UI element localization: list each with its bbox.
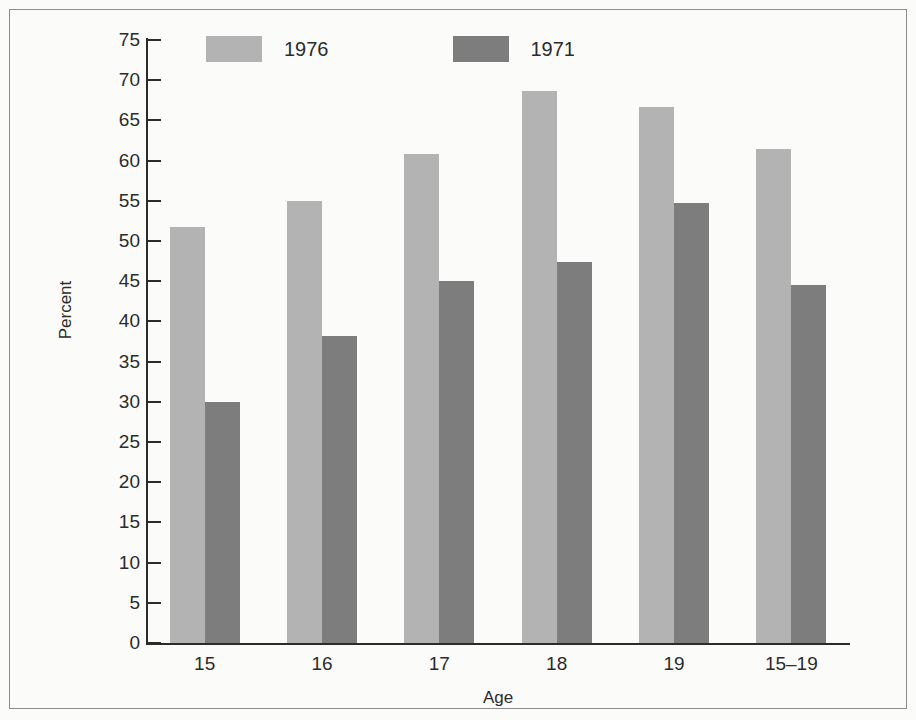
y-axis-tick-label: 50 bbox=[96, 231, 140, 251]
y-axis-tick-label: 75 bbox=[96, 30, 140, 50]
y-axis-tick-label: 10 bbox=[96, 553, 140, 573]
y-axis-tick-label-text: 5 bbox=[100, 593, 140, 612]
bar-1976-15 bbox=[170, 227, 205, 643]
y-axis-tick-mark bbox=[148, 481, 161, 483]
y-axis-tick-label: 30 bbox=[96, 392, 140, 412]
legend-swatch-icon-1976 bbox=[206, 36, 262, 62]
y-axis-tick-mark bbox=[148, 642, 161, 644]
y-axis-tick-label: 0 bbox=[96, 633, 140, 653]
bar-1971-19 bbox=[674, 203, 709, 643]
y-axis-tick-label-text: 60 bbox=[100, 151, 140, 170]
y-axis-title: Percent bbox=[56, 240, 76, 380]
figure-container: 051015202530354045505560657075 151617181… bbox=[0, 0, 916, 720]
bar-1976-16 bbox=[287, 201, 322, 643]
bar-1976-15-19 bbox=[756, 149, 791, 643]
bar-1976-18 bbox=[522, 91, 557, 643]
y-axis-tick-label-text: 70 bbox=[100, 70, 140, 89]
y-axis-tick-mark bbox=[148, 361, 161, 363]
y-axis-tick-mark bbox=[148, 119, 161, 121]
y-axis-tick-label-text: 45 bbox=[100, 271, 140, 290]
y-axis-line bbox=[146, 38, 148, 645]
y-axis-tick-label: 35 bbox=[96, 352, 140, 372]
y-axis-tick-mark bbox=[148, 320, 161, 322]
y-axis-tick-label-text: 20 bbox=[100, 472, 140, 491]
y-axis-tick-mark bbox=[148, 280, 161, 282]
x-axis-line bbox=[146, 643, 850, 645]
y-axis-tick-label-text: 0 bbox=[100, 633, 140, 652]
legend-swatch-icon-1971 bbox=[453, 36, 509, 62]
y-axis-tick-mark bbox=[148, 79, 161, 81]
legend-entry-1971: 1971 bbox=[453, 36, 576, 62]
y-axis-tick-label: 25 bbox=[96, 432, 140, 452]
y-axis-tick-label-text: 35 bbox=[100, 352, 140, 371]
y-axis-tick-mark bbox=[148, 562, 161, 564]
x-axis-tick-label-16: 16 bbox=[262, 653, 382, 675]
x-axis-tick-label-18: 18 bbox=[497, 653, 617, 675]
y-axis-tick-label-text: 30 bbox=[100, 392, 140, 411]
y-axis-tick-label: 15 bbox=[96, 512, 140, 532]
bar-1976-19 bbox=[639, 107, 674, 643]
x-axis-title: Age bbox=[146, 688, 850, 708]
chart-plot-area: 051015202530354045505560657075 151617181… bbox=[0, 0, 916, 720]
y-axis-tick-mark bbox=[148, 200, 161, 202]
y-axis-tick-label: 20 bbox=[96, 472, 140, 492]
y-axis-tick-label: 5 bbox=[96, 593, 140, 613]
y-axis-tick-mark bbox=[148, 240, 161, 242]
legend-label-1976: 1976 bbox=[284, 39, 329, 59]
y-axis-tick-label: 45 bbox=[96, 271, 140, 291]
bar-1971-15-19 bbox=[791, 285, 826, 643]
y-axis-tick-label-text: 10 bbox=[100, 553, 140, 572]
y-axis-tick-label: 55 bbox=[96, 191, 140, 211]
bar-1971-16 bbox=[322, 336, 357, 643]
y-axis-tick-label-text: 15 bbox=[100, 512, 140, 531]
y-axis-tick-label-text: 50 bbox=[100, 231, 140, 250]
legend-label-1971: 1971 bbox=[531, 39, 576, 59]
y-axis-tick-label-text: 40 bbox=[100, 311, 140, 330]
y-axis-tick-mark bbox=[148, 602, 161, 604]
y-axis-tick-label-text: 55 bbox=[100, 191, 140, 210]
x-axis-tick-label-17: 17 bbox=[379, 653, 499, 675]
y-axis-tick-label: 65 bbox=[96, 110, 140, 130]
y-axis-tick-label-text: 65 bbox=[100, 110, 140, 129]
x-axis-tick-label-15-19: 15–19 bbox=[731, 653, 851, 675]
y-axis-tick-mark bbox=[148, 441, 161, 443]
y-axis-tick-mark bbox=[148, 39, 161, 41]
y-axis-tick-label-text: 75 bbox=[100, 30, 140, 49]
x-axis-tick-label-15: 15 bbox=[145, 653, 265, 675]
legend-entry-1976: 1976 bbox=[206, 36, 329, 62]
y-axis-tick-label: 40 bbox=[96, 311, 140, 331]
bar-1971-18 bbox=[557, 262, 592, 643]
y-axis-tick-mark bbox=[148, 401, 161, 403]
y-axis-tick-label: 70 bbox=[96, 70, 140, 90]
x-axis-tick-label-19: 19 bbox=[614, 653, 734, 675]
bar-1971-15 bbox=[205, 402, 240, 643]
bar-1976-17 bbox=[404, 154, 439, 643]
y-axis-tick-label: 60 bbox=[96, 151, 140, 171]
y-axis-tick-mark bbox=[148, 160, 161, 162]
y-axis-tick-mark bbox=[148, 521, 161, 523]
chart-legend: 1976 1971 bbox=[206, 36, 575, 62]
bar-1971-17 bbox=[439, 281, 474, 643]
y-axis-tick-label-text: 25 bbox=[100, 432, 140, 451]
